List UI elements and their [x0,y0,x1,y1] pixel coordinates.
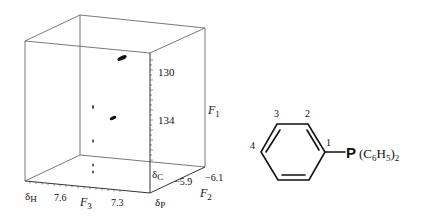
spectrum-cube: 130 134 F1 δC −5.9 −6.1 F2 δP δH 7.6 F3 … [25,15,223,211]
peak-2 [109,115,117,121]
peak-5 [92,163,94,166]
f3-tick-7.6: 7.6 [54,192,67,203]
position-4-label: 4 [250,140,255,151]
f1-nucleus-label: δC [152,168,163,182]
cube-back-bottom-edge [80,155,205,167]
f2-tick-neg5.9: −5.9 [174,176,192,187]
f3-nucleus-label: δH [25,190,37,204]
position-3-label: 3 [274,108,279,119]
cube-top-left-edge [25,15,80,41]
position-2-label: 2 [305,108,310,119]
cross-peaks [92,54,127,174]
phosphorus-atom: P [346,144,356,161]
f2-tick-neg6.1: −6.1 [205,172,223,183]
f2-axis-label: F2 [199,186,212,202]
triphenylphosphine-structure: 1 2 3 4 P (C6H5)2 [250,108,399,180]
f1-axis-ticks [150,60,153,160]
cube-back-edge [80,15,205,167]
benzene-ring [261,124,325,180]
peak-4 [92,139,94,143]
f3-axis-label: F3 [79,195,92,211]
cube-bottom-left-edge [25,155,80,181]
f2-nucleus-label: δP [155,196,165,210]
diphenyl-group: (C6H5)2 [359,146,399,163]
peak-1 [117,54,128,62]
peak-3 [92,105,94,109]
nmr-figure: 130 134 F1 δC −5.9 −6.1 F2 δP δH 7.6 F3 … [0,0,434,217]
cube-front-top-edge [25,41,150,53]
f3-axis [25,181,150,193]
cube-top-right-edge [150,28,205,53]
f1-axis-label: F1 [207,103,220,119]
peak-6 [92,170,94,173]
f1-tick-134: 134 [158,114,175,126]
f1-tick-130: 130 [158,66,175,78]
position-1-label: 1 [326,137,331,148]
f3-tick-7.3: 7.3 [111,197,124,208]
